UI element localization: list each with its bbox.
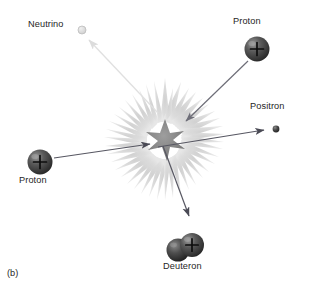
proton-top-right-particle xyxy=(245,37,270,62)
neutrino-arrow xyxy=(89,40,158,113)
neutrino-particle xyxy=(78,26,86,34)
label-deuteron: Deuteron xyxy=(163,262,202,271)
reaction-diagram xyxy=(0,0,310,294)
label-neutrino: Neutrino xyxy=(28,20,64,29)
panel-label: (b) xyxy=(7,268,18,278)
label-proton-left: Proton xyxy=(19,176,47,185)
deuteron-particle xyxy=(167,233,205,262)
proton-top-right-arrow xyxy=(186,61,248,121)
label-proton-top-right: Proton xyxy=(233,17,261,26)
proton-left-particle xyxy=(28,150,53,175)
positron-particle xyxy=(273,126,280,133)
figure-panel: Neutrino Proton Positron Proton Deuteron… xyxy=(0,0,310,294)
label-positron: Positron xyxy=(250,102,285,111)
